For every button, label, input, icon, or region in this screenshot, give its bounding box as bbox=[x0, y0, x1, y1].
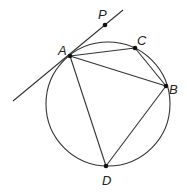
label-A: A bbox=[57, 43, 67, 58]
label-P: P bbox=[98, 7, 107, 22]
point-B bbox=[164, 84, 169, 89]
segment-BD bbox=[106, 86, 166, 166]
segment-CB bbox=[135, 48, 166, 86]
label-D: D bbox=[102, 173, 111, 188]
label-C: C bbox=[137, 33, 147, 48]
point-A bbox=[68, 54, 73, 59]
point-D bbox=[104, 164, 109, 169]
label-B: B bbox=[169, 82, 178, 97]
circle bbox=[46, 42, 170, 166]
segment-AD bbox=[70, 56, 106, 166]
geometry-diagram: A B C D P bbox=[0, 0, 187, 194]
point-P bbox=[103, 23, 108, 28]
